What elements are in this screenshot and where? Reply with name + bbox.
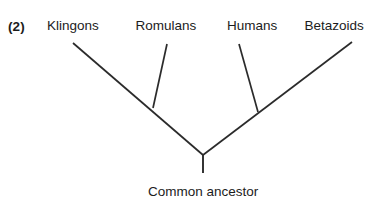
common-ancestor-label: Common ancestor: [148, 185, 258, 199]
romulans-branch: [153, 44, 167, 108]
phylogenetic-tree-figure: (2) Klingons Romulans Humans Betazoids C…: [0, 0, 382, 207]
humans-branch: [239, 44, 258, 112]
tree-branches-svg: [0, 0, 382, 207]
klingons-branch: [73, 43, 203, 155]
betazoids-branch: [203, 42, 352, 155]
